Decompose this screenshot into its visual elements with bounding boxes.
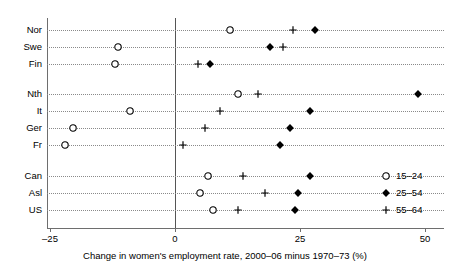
legend-label: 25–54 bbox=[396, 188, 422, 198]
x-axis-line bbox=[47, 228, 444, 229]
data-point bbox=[311, 26, 320, 35]
y-axis-line bbox=[47, 18, 48, 228]
x-axis-tick-label: 25 bbox=[295, 234, 306, 244]
y-axis-tick-label: US bbox=[0, 205, 42, 215]
data-point bbox=[111, 60, 120, 69]
gridline-row bbox=[47, 145, 444, 146]
x-axis-tick bbox=[50, 228, 51, 232]
data-point bbox=[306, 172, 315, 181]
data-point bbox=[253, 90, 262, 99]
plot-area: NorSweFinNthItGerFrCanAslUS–250255015–24… bbox=[0, 0, 450, 274]
y-axis-tick-label: Nth bbox=[0, 89, 42, 99]
gridline-row bbox=[47, 94, 444, 95]
x-axis-title: Change in women's employment rate, 2000–… bbox=[0, 250, 450, 261]
y-axis-tick-label: Asl bbox=[0, 188, 42, 198]
data-point bbox=[261, 189, 270, 198]
data-point bbox=[68, 124, 77, 133]
gridline-row bbox=[47, 111, 444, 112]
data-point bbox=[233, 90, 242, 99]
x-axis-tick bbox=[175, 228, 176, 232]
data-point bbox=[286, 124, 295, 133]
y-axis-tick-label: Ger bbox=[0, 123, 42, 133]
legend-label: 55–64 bbox=[396, 205, 422, 215]
data-point bbox=[276, 141, 285, 150]
x-axis-tick bbox=[425, 228, 426, 232]
y-axis-tick-label: Fr bbox=[0, 140, 42, 150]
data-point bbox=[206, 60, 215, 69]
data-point bbox=[278, 43, 287, 52]
x-axis-tick-label: –25 bbox=[42, 234, 58, 244]
data-point bbox=[196, 189, 205, 198]
data-point bbox=[178, 141, 187, 150]
y-axis-tick-label: It bbox=[0, 106, 42, 116]
data-point bbox=[288, 26, 297, 35]
y-axis-tick-label: Can bbox=[0, 171, 42, 181]
data-point bbox=[238, 172, 247, 181]
data-point bbox=[208, 206, 217, 215]
y-axis-tick-label: Nor bbox=[0, 25, 42, 35]
zero-reference-line bbox=[175, 18, 176, 228]
legend-label: 15–24 bbox=[396, 171, 422, 181]
data-point bbox=[226, 26, 235, 35]
data-point bbox=[266, 43, 275, 52]
data-point bbox=[126, 107, 135, 116]
x-axis-tick bbox=[300, 228, 301, 232]
legend-marker-1 bbox=[382, 172, 391, 181]
data-point bbox=[216, 107, 225, 116]
data-point bbox=[203, 172, 212, 181]
data-point bbox=[233, 206, 242, 215]
data-point bbox=[306, 107, 315, 116]
data-point bbox=[413, 90, 422, 99]
legend-marker-3 bbox=[382, 206, 391, 215]
data-point bbox=[291, 206, 300, 215]
legend-marker-2 bbox=[382, 189, 391, 198]
x-axis-tick-label: 50 bbox=[420, 234, 431, 244]
data-point bbox=[113, 43, 122, 52]
data-point bbox=[61, 141, 70, 150]
y-axis-tick-label: Swe bbox=[0, 42, 42, 52]
data-point bbox=[293, 189, 302, 198]
gridline-row bbox=[47, 47, 444, 48]
data-point bbox=[201, 124, 210, 133]
gridline-row bbox=[47, 64, 444, 65]
gridline-row bbox=[47, 30, 444, 31]
gridline-row bbox=[47, 128, 444, 129]
x-axis-tick-label: 0 bbox=[172, 234, 177, 244]
data-point bbox=[193, 60, 202, 69]
y-axis-tick-label: Fin bbox=[0, 59, 42, 69]
dot-plot-chart: NorSweFinNthItGerFrCanAslUS–250255015–24… bbox=[0, 0, 450, 274]
